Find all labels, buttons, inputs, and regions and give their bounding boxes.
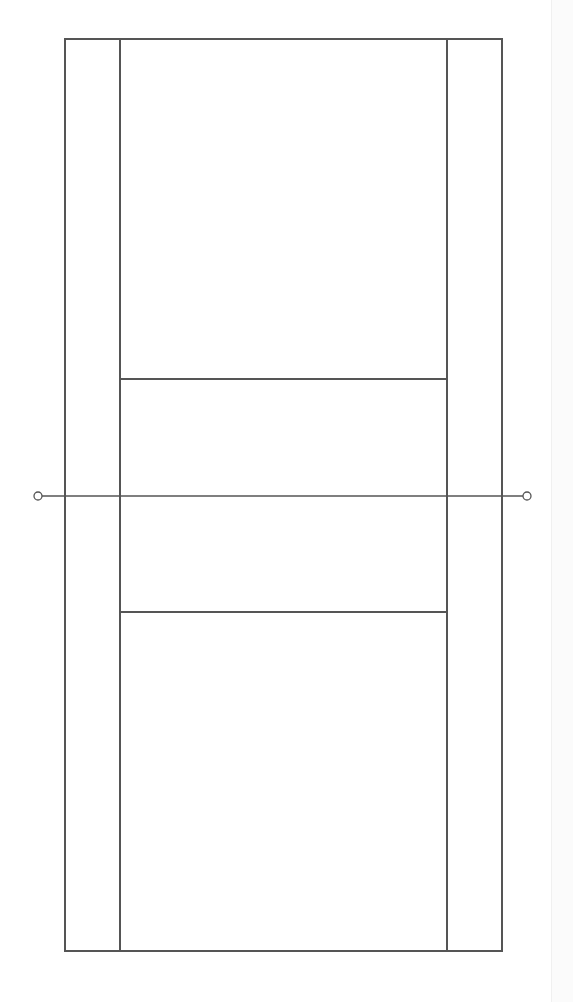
net-post-left-icon [34,492,42,500]
net-post-right-icon [523,492,531,500]
badminton-court-diagram [0,0,573,1002]
diagram-canvas [0,0,573,1002]
court-outer-boundary [65,39,502,951]
